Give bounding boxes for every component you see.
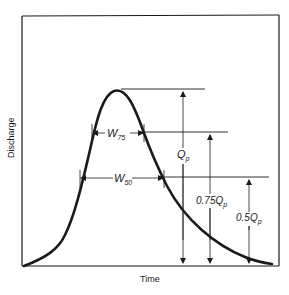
plot-frame xyxy=(22,15,279,266)
w50-label: W50 xyxy=(114,172,132,186)
qp-dimension xyxy=(174,92,194,263)
hydrograph-diagram: W75 W50 Qp 0.75Qp 0.5Qp Time Discharge xyxy=(0,0,289,295)
w75-label: W75 xyxy=(107,127,125,141)
y-axis-label: Discharge xyxy=(6,117,16,158)
x-axis-label: Time xyxy=(140,274,160,284)
